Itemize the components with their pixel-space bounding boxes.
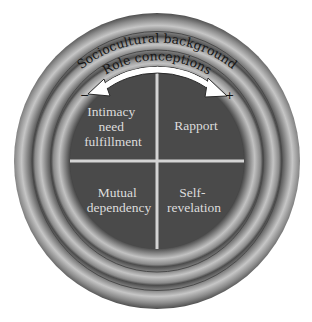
minus-sign: −: [80, 89, 89, 102]
quadrant-top-right-label: Rapport: [174, 118, 218, 133]
plus-sign: +: [225, 89, 234, 102]
wheel-of-love-diagram: Sociocultural background Role conception…: [0, 0, 312, 322]
horizontal-divider: [70, 160, 244, 163]
